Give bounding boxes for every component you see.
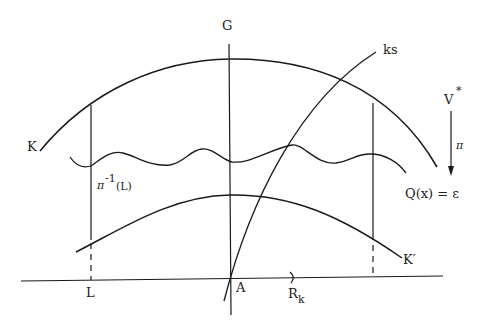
label-G: G (222, 18, 232, 33)
label-R-sub: k (298, 293, 305, 306)
label-L: L (86, 285, 95, 300)
label-pi: π (455, 139, 464, 152)
label-V-star: * (456, 84, 462, 97)
label-pi-inv: π (96, 179, 105, 192)
label-Q: Q(x) = ε (405, 186, 459, 201)
curve-ks (224, 52, 376, 301)
arc-K (40, 59, 437, 167)
diagram-canvas: G ks V * π K π -1 (L) Q(x) = ε K′ L A R … (0, 0, 485, 333)
label-A: A (235, 280, 246, 295)
label-V: V (443, 92, 454, 107)
axis-horizontal (21, 276, 443, 281)
arc-K-prime (76, 195, 402, 258)
axis-G (229, 44, 231, 315)
label-pi-inv-arg: (L) (116, 180, 132, 193)
arrow-head-icon (448, 166, 454, 176)
label-ks: ks (383, 42, 398, 57)
label-pi-inv-sup: -1 (105, 172, 116, 185)
label-K: K (27, 139, 37, 154)
level-set-curve (70, 145, 406, 173)
label-K-prime: K′ (403, 252, 416, 267)
